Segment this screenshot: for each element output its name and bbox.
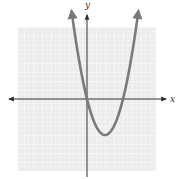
y-axis-label: y [85,1,90,10]
x-axis-label: x [170,95,175,104]
coordinate-plane [0,0,176,179]
